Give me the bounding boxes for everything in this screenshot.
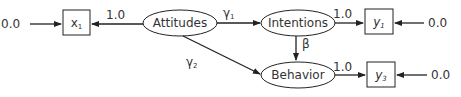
- x1-base: x: [71, 16, 78, 30]
- gamma1-label: γ1: [223, 6, 235, 24]
- gamma2-sub: 2: [193, 62, 197, 70]
- behavior-y3-loading: 1.0: [333, 60, 352, 74]
- gamma2-label: γ2: [186, 55, 198, 73]
- x1-label: x1: [63, 16, 90, 34]
- y1-label: y1: [365, 15, 393, 33]
- intentions-y1-loading: 1.0: [333, 7, 352, 21]
- behavior-label: Behavior: [261, 68, 335, 82]
- y3-sub: 3: [382, 75, 386, 83]
- y1-error-label: 0.0: [428, 16, 447, 30]
- y1-sub: 1: [380, 22, 384, 30]
- intentions-label: Intentions: [261, 16, 335, 30]
- attitudes-label: Attitudes: [143, 16, 217, 30]
- y3-label: y3: [367, 68, 395, 86]
- x1-sub: 1: [78, 23, 82, 31]
- x1-error-label: 0.0: [1, 17, 20, 31]
- beta-label: β: [302, 37, 310, 51]
- y3-error-label: 0.0: [431, 68, 450, 82]
- attitudes-x1-loading: 1.0: [106, 8, 125, 22]
- gamma1-sub: 1: [230, 13, 234, 21]
